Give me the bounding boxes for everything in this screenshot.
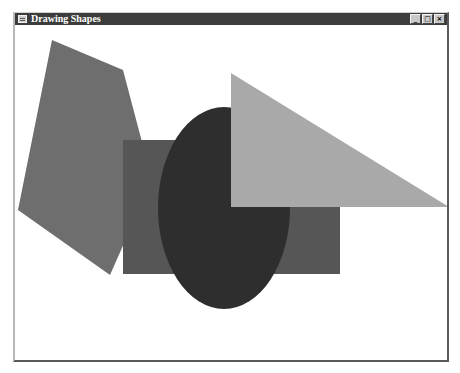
drawing-canvas [15, 25, 447, 360]
triangle-shape [231, 73, 447, 207]
close-button[interactable]: × [434, 14, 445, 24]
title-bar[interactable]: Drawing Shapes _ □ × [15, 13, 447, 25]
window-title: Drawing Shapes [31, 13, 101, 25]
maximize-button[interactable]: □ [422, 14, 433, 24]
app-window-icon[interactable] [18, 15, 27, 23]
drawing-shapes-window: Drawing Shapes _ □ × [13, 12, 449, 362]
minimize-button[interactable]: _ [410, 14, 421, 24]
window-controls: _ □ × [410, 14, 445, 24]
shapes-drawing [15, 25, 447, 360]
